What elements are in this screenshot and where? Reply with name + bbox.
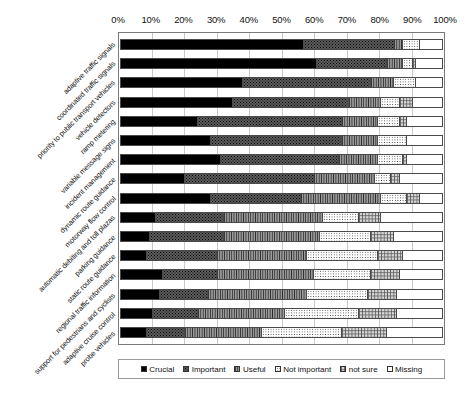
bar-segment	[371, 232, 393, 241]
bar-segment	[400, 270, 442, 279]
bar-segment	[371, 270, 400, 279]
bar-segment	[375, 174, 391, 183]
legend-swatch-icon	[183, 366, 189, 372]
legend-item[interactable]: Useful	[234, 365, 265, 374]
bar-segment	[400, 98, 413, 107]
bar-segment	[221, 155, 340, 164]
bar-segment	[323, 213, 358, 222]
x-tick-label: 60%	[305, 14, 323, 25]
bar-segment	[391, 174, 401, 183]
bar-segment	[163, 270, 218, 279]
legend-label: Missing	[395, 365, 422, 374]
x-axis-tick-labels: 0%10%20%30%40%50%60%70%80%90%100%	[118, 14, 445, 28]
bar-segment	[121, 98, 233, 107]
bar-segment	[233, 98, 349, 107]
bar-segment	[413, 98, 442, 107]
bar-segment	[285, 309, 359, 318]
bar-segment	[307, 251, 378, 260]
bar-segment	[304, 40, 394, 49]
bar-row	[120, 135, 443, 146]
bar-segment	[394, 40, 404, 49]
bar-segment	[378, 251, 404, 260]
legend-item[interactable]: Not important	[275, 365, 332, 374]
x-tick-label: 10%	[141, 14, 159, 25]
bar-segment	[150, 232, 224, 241]
legend-label: Not important	[283, 365, 331, 374]
bar-segment	[416, 59, 442, 68]
bar-segment	[400, 174, 442, 183]
bar-segment	[301, 194, 381, 203]
bar-segment	[153, 309, 198, 318]
bar-segment	[121, 290, 160, 299]
x-tick-label: 40%	[240, 14, 258, 25]
bar-segment	[381, 213, 442, 222]
bar-segment	[121, 328, 147, 337]
x-tick-label: 80%	[370, 14, 388, 25]
bar-segment	[381, 98, 400, 107]
bar-segment	[359, 213, 381, 222]
bar-segment	[320, 232, 371, 241]
legend-swatch-icon	[275, 366, 281, 372]
bar-segment	[121, 117, 198, 126]
bar-segment	[121, 270, 163, 279]
x-tick-label: 50%	[272, 14, 290, 25]
bar-segment	[314, 270, 372, 279]
bar-segment	[121, 309, 153, 318]
bar-segment	[121, 155, 221, 164]
bar-segment	[224, 213, 324, 222]
bar-row	[120, 193, 443, 204]
legend-label: Crucial	[149, 365, 174, 374]
x-tick-label: 90%	[403, 14, 421, 25]
bar-segment	[224, 232, 320, 241]
bar-segment	[416, 78, 442, 87]
bar-segment	[307, 290, 368, 299]
bar-row	[120, 173, 443, 184]
bar-segment	[420, 40, 442, 49]
bar-segment	[407, 194, 420, 203]
bar-segment	[147, 328, 186, 337]
bar-segment	[314, 174, 375, 183]
bar-segment	[339, 155, 378, 164]
bar-segment	[378, 155, 404, 164]
bar-segment	[121, 232, 150, 241]
bar-row	[120, 250, 443, 261]
legend-item[interactable]: not sure	[340, 365, 377, 374]
bar-segment	[121, 40, 304, 49]
bar-segment	[397, 309, 442, 318]
bar-segment	[359, 309, 398, 318]
bar-row	[120, 77, 443, 88]
x-tick-label: 100%	[433, 14, 457, 25]
bar-segment	[185, 174, 313, 183]
bar-row	[120, 231, 443, 242]
legend-item[interactable]: Important	[183, 365, 225, 374]
bar-row	[120, 308, 443, 319]
chart-plot-area	[118, 32, 445, 345]
y-axis-category-labels: adaptive traffic signalscoordinated traf…	[0, 32, 118, 345]
bar-segment	[349, 98, 381, 107]
x-tick-label: 0%	[111, 14, 124, 25]
bar-row	[120, 269, 443, 280]
bar-segment	[262, 328, 342, 337]
x-tick-label: 20%	[174, 14, 192, 25]
bar-segment	[121, 251, 147, 260]
bar-segment	[185, 328, 262, 337]
bar-segment	[211, 136, 343, 145]
bar-segment	[121, 78, 243, 87]
bar-segment	[121, 59, 317, 68]
bar-segment	[121, 194, 211, 203]
bar-segment	[407, 136, 442, 145]
bar-segment	[217, 270, 313, 279]
legend-item[interactable]: Missing	[387, 365, 423, 374]
bar-segment	[407, 155, 442, 164]
bar-row	[120, 327, 443, 338]
bar-segment	[211, 194, 301, 203]
bar-segment	[160, 290, 208, 299]
legend-label: Important	[192, 365, 226, 374]
legend-item[interactable]: Crucial	[141, 365, 174, 374]
bar-segment	[342, 328, 387, 337]
bar-row	[120, 58, 443, 69]
bar-segment	[147, 251, 218, 260]
stacked-bar-series-container	[119, 33, 444, 344]
legend-label: not sure	[349, 365, 378, 374]
bar-segment	[317, 59, 388, 68]
